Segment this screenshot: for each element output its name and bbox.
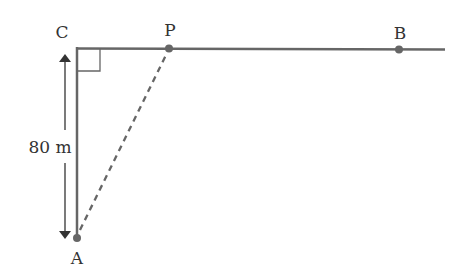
- label-a: A: [70, 248, 84, 268]
- line-cb: [76, 49, 445, 50]
- point-a: [73, 234, 81, 242]
- line-ap-dashed: [80, 53, 167, 230]
- right-angle-marker: [77, 48, 100, 71]
- label-c: C: [55, 22, 68, 42]
- point-p: [165, 45, 173, 53]
- label-b: B: [394, 23, 407, 43]
- label-p: P: [164, 20, 175, 40]
- geometry-diagram: C P B A 80 m: [0, 0, 466, 277]
- dimension-label: 80 m: [28, 137, 71, 157]
- point-b: [395, 46, 403, 54]
